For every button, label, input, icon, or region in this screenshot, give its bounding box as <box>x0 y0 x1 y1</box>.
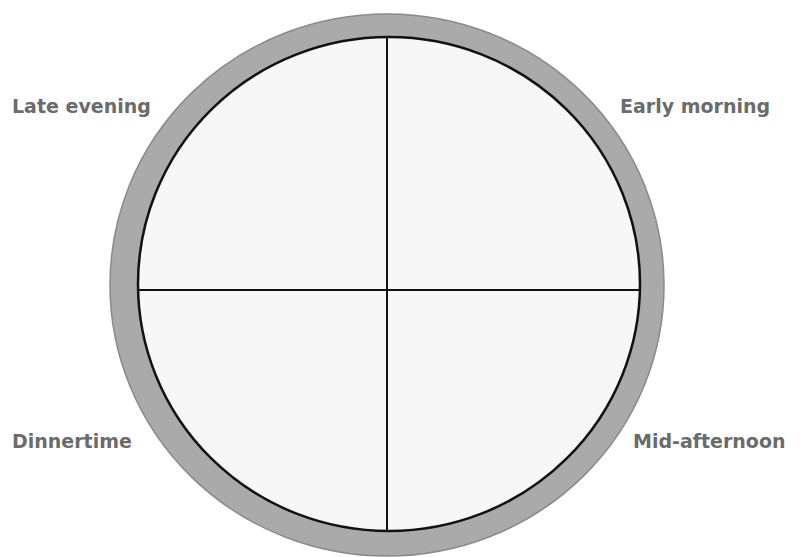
label-dinnertime: Dinnertime <box>12 430 132 452</box>
label-mid-afternoon: Mid-afternoon <box>633 430 786 452</box>
quadrant-circle-diagram <box>0 0 805 557</box>
label-early-morning: Early morning <box>620 95 770 117</box>
inner-circle <box>138 37 640 531</box>
label-late-evening: Late evening <box>12 95 151 117</box>
